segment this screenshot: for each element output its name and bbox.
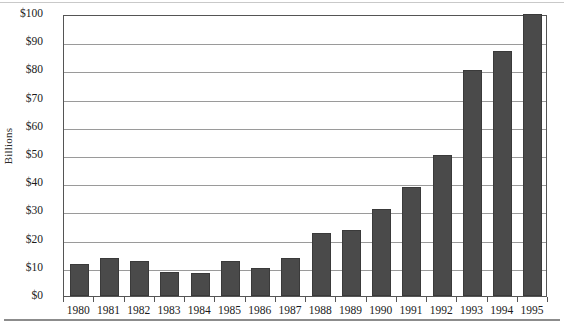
y-axis-tick-label: $70: [26, 92, 43, 104]
bar: [281, 258, 300, 296]
x-axis-tick-label: 1989: [335, 304, 365, 316]
x-axis-tick-mark: [184, 297, 185, 302]
y-axis-tick-label: $0: [32, 289, 44, 301]
bar: [433, 155, 452, 296]
bar: [130, 261, 149, 296]
x-axis-tick-label: 1983: [154, 304, 184, 316]
bar: [372, 209, 391, 296]
x-axis-tick-label: 1980: [63, 304, 93, 316]
y-axis-tick-label: $30: [26, 204, 43, 216]
x-axis-tick-mark: [547, 297, 548, 302]
x-axis-tick-mark: [487, 297, 488, 302]
x-axis-tick-mark: [214, 297, 215, 302]
top-divider-rule: [0, 2, 564, 3]
x-axis-tick-mark: [245, 297, 246, 302]
x-axis-tick-label: 1982: [124, 304, 154, 316]
y-axis-tick-label: $80: [26, 63, 43, 75]
x-axis-tick-mark: [63, 297, 64, 302]
x-axis-tick-mark: [275, 297, 276, 302]
bar: [493, 51, 512, 296]
x-axis-tick-label: 1986: [245, 304, 275, 316]
x-axis-tick-label: 1995: [517, 304, 547, 316]
x-axis-tick-label: 1993: [456, 304, 486, 316]
x-axis-tick-label: 1988: [305, 304, 335, 316]
bar: [70, 264, 89, 296]
bar: [523, 14, 542, 296]
x-axis-tick-mark: [305, 297, 306, 302]
bar: [251, 268, 270, 296]
bar-chart-figure: Billions $0$10$20$30$40$50$60$70$80$90$1…: [0, 0, 564, 328]
bar: [463, 70, 482, 296]
x-axis-tick-mark: [124, 297, 125, 302]
x-axis-tick-label: 1984: [184, 304, 214, 316]
x-axis-tick-mark: [154, 297, 155, 302]
x-axis-tick-label: 1981: [93, 304, 123, 316]
plot-area: [63, 15, 547, 297]
bar: [191, 273, 210, 296]
y-axis-tick-label: $90: [26, 35, 43, 47]
x-axis-tick-label: 1992: [426, 304, 456, 316]
x-axis-tick-label: 1985: [214, 304, 244, 316]
y-axis-tick-label: $50: [26, 148, 43, 160]
bar: [221, 261, 240, 296]
y-axis-tick-label: $10: [26, 261, 43, 273]
y-axis-tick-label: $20: [26, 233, 43, 245]
x-axis-tick-label: 1994: [487, 304, 517, 316]
x-axis-tick-mark: [517, 297, 518, 302]
y-axis-tick-labels: $0$10$20$30$40$50$60$70$80$90$100: [0, 0, 63, 328]
x-axis-tick-label: 1990: [366, 304, 396, 316]
bar: [402, 187, 421, 296]
bottom-divider-rule: [4, 319, 560, 321]
bar: [342, 230, 361, 296]
x-axis-tick-mark: [396, 297, 397, 302]
bar: [100, 258, 119, 296]
y-axis-tick-label: $100: [20, 7, 43, 19]
x-axis-tick-label: 1991: [396, 304, 426, 316]
bar: [312, 233, 331, 296]
x-axis-tick-mark: [366, 297, 367, 302]
bars-group: [64, 16, 546, 296]
x-axis: 1980198119821983198419851986198719881989…: [63, 297, 547, 328]
y-axis-tick-label: $40: [26, 176, 43, 188]
x-axis-tick-mark: [456, 297, 457, 302]
x-axis-tick-mark: [93, 297, 94, 302]
y-axis-tick-label: $60: [26, 120, 43, 132]
x-axis-tick-mark: [335, 297, 336, 302]
x-axis-tick-mark: [426, 297, 427, 302]
bar: [160, 272, 179, 296]
x-axis-tick-label: 1987: [275, 304, 305, 316]
